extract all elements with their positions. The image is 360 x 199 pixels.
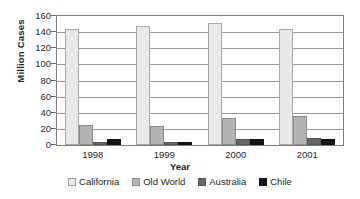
bar-california-2001 — [279, 29, 293, 145]
legend-swatch-icon — [259, 178, 267, 186]
y-axis-tick-label: 60 — [25, 92, 51, 101]
bar-chile-2000 — [250, 139, 264, 145]
x-axis-tick-label: 2001 — [272, 149, 344, 160]
bar-old-world-1999 — [150, 126, 164, 145]
legend-item-chile[interactable]: Chile — [259, 176, 292, 187]
bar-group — [129, 16, 201, 145]
y-axis-tick-label: 160 — [25, 11, 51, 20]
bar-group-bars — [200, 16, 272, 145]
legend-item-australia[interactable]: Australia — [198, 176, 246, 187]
bar-california-1998 — [65, 29, 79, 145]
bar-australia-2001 — [307, 138, 321, 145]
legend-label: Chile — [270, 176, 292, 187]
bar-group-bars — [129, 16, 201, 145]
bar-group-bars — [57, 16, 129, 145]
y-axis-tick-label: 140 — [25, 27, 51, 36]
legend-swatch-icon — [198, 178, 206, 186]
bar-groups — [57, 16, 343, 145]
bar-australia-2000 — [236, 139, 250, 145]
bar-group — [57, 16, 129, 145]
bar-australia-1998 — [93, 142, 107, 145]
y-axis-tick-label: 40 — [25, 108, 51, 117]
y-axis-tick-label: 80 — [25, 76, 51, 85]
x-axis-tick-label: 1998 — [57, 149, 129, 160]
bar-group — [272, 16, 344, 145]
bar-chile-1999 — [178, 142, 192, 145]
x-axis-tick-label: 2000 — [200, 149, 272, 160]
bar-group-bars — [272, 16, 344, 145]
x-axis-title: Year — [0, 161, 360, 172]
chart-legend: CaliforniaOld WorldAustraliaChile — [0, 176, 360, 187]
legend-item-california[interactable]: California — [68, 176, 119, 187]
bar-old-world-2000 — [222, 118, 236, 145]
bar-california-1999 — [136, 26, 150, 145]
bar-california-2000 — [208, 23, 222, 145]
bar-old-world-1998 — [79, 125, 93, 145]
legend-swatch-icon — [68, 178, 76, 186]
legend-item-old-world[interactable]: Old World — [132, 176, 185, 187]
y-axis-tick-label: 20 — [25, 124, 51, 133]
y-axis-tick-label: 120 — [25, 43, 51, 52]
x-axis-tick-labels: 1998199920002001 — [57, 149, 343, 160]
bar-group — [200, 16, 272, 145]
legend-label: California — [79, 176, 119, 187]
bar-old-world-2001 — [293, 116, 307, 145]
bar-australia-1999 — [164, 142, 178, 145]
y-axis-tick-label: 100 — [25, 59, 51, 68]
y-axis-tick-label: 0 — [25, 140, 51, 149]
x-axis-tick-label: 1999 — [129, 149, 201, 160]
bar-chart-figure: Million Cases 160140120100806040200 1998… — [0, 0, 360, 199]
bar-chile-2001 — [321, 139, 335, 145]
legend-label: Australia — [209, 176, 246, 187]
legend-label: Old World — [143, 176, 185, 187]
legend-swatch-icon — [132, 178, 140, 186]
bar-chile-1998 — [107, 139, 121, 145]
